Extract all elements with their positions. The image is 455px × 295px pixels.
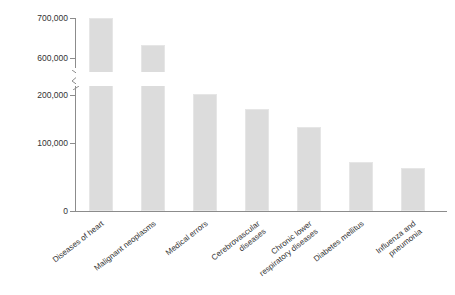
bar-diabetes-mellitus xyxy=(349,162,373,211)
y-tick-label-600000: 600,000 xyxy=(8,53,68,63)
y-axis-line-upper xyxy=(75,18,76,68)
y-tick-label-700000: 700,000 xyxy=(8,13,68,23)
bar-cerebrovascular-diseases xyxy=(245,109,269,211)
x-label-diseases-of-heart: Diseases of heart xyxy=(0,219,106,295)
plot-area xyxy=(75,14,447,212)
y-axis-line-lower xyxy=(75,86,76,212)
y-tick-600000 xyxy=(70,58,75,59)
bar-influenza-and-pneumonia xyxy=(401,168,425,211)
y-tick-0 xyxy=(70,211,75,212)
y-tick-700000 xyxy=(70,18,75,19)
y-tick-label-100000: 100,000 xyxy=(8,138,68,148)
y-tick-100000 xyxy=(70,143,75,144)
bar-chronic-lower-respiratory-diseases xyxy=(297,127,321,211)
axis-break-gap-mask xyxy=(76,72,447,86)
x-axis-line xyxy=(75,211,447,212)
bar-medical-errors xyxy=(193,94,217,211)
bar-diseases-of-heart xyxy=(89,18,113,211)
bar-malignant-neoplasms xyxy=(141,45,165,211)
y-tick-label-0: 0 xyxy=(8,206,68,216)
y-tick-label-200000: 200,000 xyxy=(8,90,68,100)
y-tick-200000 xyxy=(70,95,75,96)
bar-chart: Number of deaths 700,000 600,000 200,000… xyxy=(0,0,455,295)
